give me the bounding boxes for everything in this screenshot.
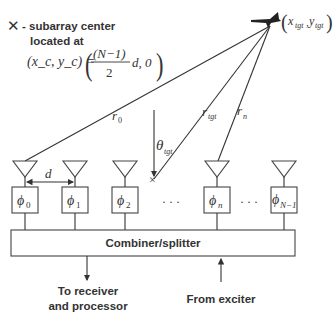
svg-text:tgt: tgt (315, 21, 324, 30)
equation-denominator: 2 (106, 65, 113, 80)
antenna-n (205, 161, 229, 187)
svg-text:): ) (326, 11, 333, 34)
svg-text:Combiner/splitter: Combiner/splitter (105, 237, 201, 249)
antenna-1 (63, 161, 87, 187)
antenna-N-1 (272, 161, 296, 187)
svg-text:ϕ: ϕ (67, 193, 74, 208)
legend: ✕ - subarray center located at (x_c, y_c… (7, 18, 163, 82)
label-theta-tgt: θ tgt (156, 137, 173, 156)
airplane-icon (251, 12, 281, 28)
phase-shifter-N-1: ϕ N−1 (271, 187, 297, 230)
ellipsis-1: · · · (162, 195, 180, 209)
svg-text:tgt: tgt (164, 147, 173, 156)
equation-tail: d, 0 (132, 55, 152, 70)
svg-text:tgt: tgt (295, 21, 304, 30)
receiver-label-line2: and processor (48, 300, 128, 312)
exciter-label: From exciter (186, 293, 256, 305)
phase-shifter-1: ϕ 1 (62, 187, 88, 230)
phased-array-diagram: ✕ - subarray center located at (x_c, y_c… (0, 0, 334, 320)
legend-line1: - subarray center (22, 20, 116, 32)
svg-text:ϕ: ϕ (272, 192, 279, 207)
antenna-0 (13, 161, 37, 187)
svg-text:n: n (243, 112, 247, 121)
subarray-center-x-icon: × (149, 173, 156, 187)
svg-text:ϕ: ϕ (209, 193, 216, 208)
svg-text:0: 0 (26, 200, 31, 210)
equation-open-paren: ( (85, 46, 92, 82)
phase-shifter-2: ϕ 2 (112, 187, 138, 230)
svg-text:1: 1 (76, 200, 81, 210)
spacing-label: d (45, 166, 52, 181)
ray-rtgt (154, 26, 270, 179)
svg-text:N−1: N−1 (279, 200, 297, 210)
svg-text:θ: θ (156, 137, 164, 153)
subarray-center-marker-icon: ✕ (7, 18, 20, 34)
svg-text:2: 2 (126, 200, 131, 210)
svg-text:ϕ: ϕ (17, 193, 24, 208)
legend-line2: located at (30, 35, 84, 47)
phase-shifter-n: ϕ n (204, 187, 230, 230)
svg-text:n: n (218, 200, 223, 210)
svg-text:0: 0 (118, 116, 122, 125)
label-r0: r 0 (112, 108, 122, 125)
svg-text:x: x (287, 14, 294, 28)
equation-close-paren: ) (156, 46, 163, 82)
legend-equation: (x_c, y_c) = ( (N−1) 2 d, 0 ) (27, 46, 163, 82)
ray-rn (218, 26, 270, 161)
phase-shifter-0: ϕ 0 (12, 187, 38, 230)
svg-text:ϕ: ϕ (117, 193, 124, 208)
receiver-label-line1: To receiver (58, 285, 119, 297)
svg-text:y: y (308, 14, 315, 28)
svg-text:tgt: tgt (208, 112, 217, 121)
combiner-splitter: Combiner/splitter (11, 230, 295, 256)
target-position-label: ( x tgt , y tgt ) (281, 11, 333, 34)
label-rn: r n (237, 103, 247, 121)
svg-text:(: ( (281, 11, 288, 34)
ellipsis-2: · · · (240, 195, 258, 209)
antenna-2 (113, 161, 137, 187)
equation-numerator: (N−1) (93, 46, 126, 61)
